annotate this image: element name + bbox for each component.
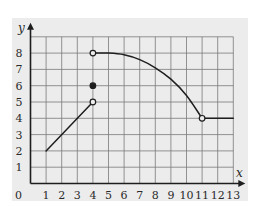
open-endpoint-marker xyxy=(199,116,205,122)
y-tick-label: 5 xyxy=(16,96,23,109)
x-tick-label: 7 xyxy=(136,189,143,202)
open-endpoint-marker xyxy=(90,50,96,56)
x-tick-label: 13 xyxy=(226,189,240,202)
x-tick-label: 2 xyxy=(58,189,65,202)
closed-point-marker xyxy=(90,83,96,89)
y-tick-label: 3 xyxy=(16,129,23,142)
y-tick-label: 8 xyxy=(16,47,23,60)
x-tick-label: 4 xyxy=(89,189,96,202)
open-endpoint-marker xyxy=(90,99,96,105)
x-tick-label: 0 xyxy=(15,189,22,202)
y-tick-label: 7 xyxy=(16,63,23,76)
y-axis-label: y xyxy=(17,21,25,35)
x-tick-label: 11 xyxy=(195,189,209,202)
chart-figure: 012345678910111213 12345678 x y xyxy=(0,0,259,216)
x-tick-label: 6 xyxy=(121,189,128,202)
y-tick-label: 1 xyxy=(16,161,23,174)
x-tick-label: 10 xyxy=(180,189,194,202)
x-axis-label: x xyxy=(236,166,243,180)
piecewise-function-graph: 012345678910111213 12345678 x y xyxy=(0,0,259,216)
y-tick-label: 2 xyxy=(16,145,23,158)
chart-panel-background xyxy=(12,18,248,201)
x-tick-label: 5 xyxy=(105,189,112,202)
x-tick-label: 1 xyxy=(43,189,50,202)
x-tick-label: 8 xyxy=(152,189,159,202)
x-tick-label: 3 xyxy=(74,189,81,202)
y-tick-label: 4 xyxy=(16,112,23,125)
x-tick-label: 9 xyxy=(167,189,174,202)
x-tick-label: 12 xyxy=(211,189,225,202)
y-tick-label: 6 xyxy=(16,80,23,93)
